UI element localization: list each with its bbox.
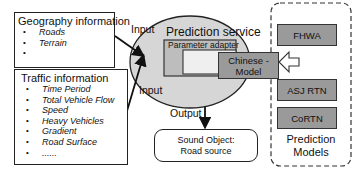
output-label: Output — [170, 107, 202, 119]
prediction-models-label-line1: Prediction — [271, 133, 351, 146]
list-item: Road Surface — [21, 137, 127, 148]
list-item — [18, 48, 114, 59]
list-item: Speed — [21, 105, 127, 116]
model-asj-rtn: ASJ RTN — [277, 79, 337, 101]
model-asj-rtn-label: ASJ RTN — [287, 85, 326, 96]
traffic-info-title: Traffic information — [21, 72, 127, 84]
input-label-top: Input — [131, 23, 154, 35]
model-cortn: CoRTN — [277, 107, 337, 129]
prediction-service-title: Prediction service — [166, 25, 261, 39]
list-item: Gradient — [21, 126, 127, 137]
model-fhwa: FHWA — [277, 24, 337, 46]
sound-object-line2: Road source — [180, 146, 231, 157]
input-label-bottom: Input — [139, 84, 162, 96]
chinese-model-label: Chinese - Model — [219, 55, 278, 77]
list-item: Time Period — [21, 84, 127, 95]
traffic-info-list: Time Period Total Vehicle Flow Speed Hea… — [21, 84, 127, 158]
sound-object-line1: Sound Object: — [177, 135, 234, 146]
model-selection-arrow-icon — [279, 52, 299, 72]
prediction-models-label: Prediction Models — [271, 133, 351, 159]
prediction-models-label-line2: Models — [271, 146, 351, 159]
list-item: Terrain — [18, 38, 114, 49]
geography-info-title: Geography information — [18, 15, 114, 27]
sound-object-box: Sound Object: Road source — [154, 129, 258, 162]
geography-info-list: Roads Terrain — [18, 27, 114, 59]
traffic-info-box: Traffic information Time Period Total Ve… — [14, 69, 128, 165]
model-fhwa-label: FHWA — [293, 30, 321, 41]
list-item: ...... — [21, 148, 127, 159]
list-item: Roads — [18, 27, 114, 38]
chinese-model-box: Chinese - Model — [218, 52, 279, 79]
model-cortn-label: CoRTN — [291, 113, 323, 124]
list-item: Heavy Vehicles — [21, 116, 127, 127]
geography-info-box: Geography information Roads Terrain — [14, 12, 115, 68]
list-item: Total Vehicle Flow — [21, 95, 127, 106]
parameter-adapter-label: Parameter adapter — [168, 40, 239, 50]
